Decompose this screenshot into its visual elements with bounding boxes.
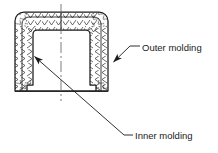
outer-molding-leader-line [114, 46, 141, 62]
molding-body [12, 9, 111, 96]
outer-molding-label: Outer molding [142, 42, 202, 53]
inner-molding-leader-line [35, 57, 134, 136]
cross-section-drawing: Outer molding Inner molding [0, 0, 218, 153]
callout-outer-molding: Outer molding [114, 42, 202, 62]
inner-cavity-outline [27, 30, 96, 91]
inner-molding-label: Inner molding [135, 130, 193, 141]
figure-root: Outer molding Inner molding [0, 0, 218, 153]
section-hatching [12, 9, 111, 96]
callout-inner-molding: Inner molding [35, 57, 193, 141]
